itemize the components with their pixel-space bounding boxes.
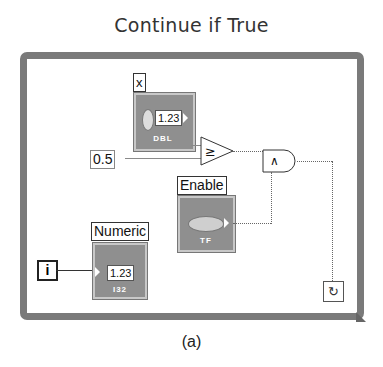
enable-label: Enable xyxy=(177,176,227,195)
wire-i-to-numeric xyxy=(56,270,94,271)
x-label: x xyxy=(133,73,146,92)
wire-enable-h xyxy=(233,223,271,224)
figure-caption: (a) xyxy=(0,333,383,351)
numeric-indicator-terminal[interactable]: 1.23 I32 xyxy=(93,243,147,299)
numeric-type: I32 xyxy=(105,285,135,294)
greater-equal-icon[interactable]: ≥ xyxy=(200,136,234,166)
boolean-led-icon xyxy=(188,216,224,232)
wire-const-to-compare xyxy=(125,158,201,159)
numeric-value: 1.23 xyxy=(107,265,134,281)
iteration-terminal[interactable]: i xyxy=(37,260,58,281)
x-value: 1.23 xyxy=(155,110,182,126)
diagram-title: Continue if True xyxy=(0,14,383,36)
loop-resize-corner[interactable] xyxy=(356,312,366,322)
wire-and-out-h xyxy=(297,161,332,162)
enable-control-terminal[interactable]: TF xyxy=(178,196,235,252)
loop-condition-icon[interactable]: ↻ xyxy=(323,281,344,302)
numeric-label: Numeric xyxy=(91,222,149,241)
input-arrow-icon xyxy=(95,267,100,277)
and-gate-icon[interactable]: ∧ xyxy=(262,149,298,173)
enable-type: TF xyxy=(192,236,220,245)
constant-0-5[interactable]: 0.5 xyxy=(90,150,115,169)
x-type: DBL xyxy=(148,134,178,143)
wire-compare-to-and xyxy=(233,151,263,152)
output-arrow-icon xyxy=(183,113,188,123)
wire-enable-v xyxy=(271,172,272,224)
x-control-terminal[interactable]: 1.23 DBL xyxy=(134,93,195,151)
svg-text:≥: ≥ xyxy=(205,144,216,159)
svg-text:∧: ∧ xyxy=(270,154,279,168)
wire-and-out-v xyxy=(332,161,333,281)
numeric-knob-icon xyxy=(142,109,154,131)
output-arrow-icon xyxy=(224,218,229,228)
